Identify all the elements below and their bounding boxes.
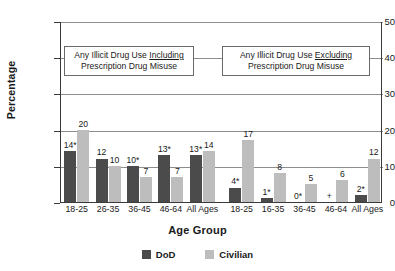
plot-right-edge bbox=[381, 22, 382, 203]
bar-value-label: 12 bbox=[369, 148, 379, 157]
y-tick-mark bbox=[54, 203, 60, 204]
bar-value-label: 1* bbox=[263, 188, 271, 197]
bar-value-label: 6 bbox=[340, 170, 345, 179]
bar-dod[interactable] bbox=[96, 159, 108, 202]
bar-civilian[interactable] bbox=[305, 184, 317, 202]
bar-civilian[interactable] bbox=[242, 140, 254, 202]
bar-value-label: 17 bbox=[243, 130, 253, 139]
bar-slot: 14 bbox=[203, 21, 215, 202]
x-tick-label: All Ages bbox=[181, 205, 224, 214]
annotation-left-emphasis: Including bbox=[149, 50, 183, 60]
bar-dod[interactable] bbox=[190, 155, 202, 202]
bar-value-label: 10 bbox=[110, 156, 120, 165]
annotation-right-emphasis: Excluding bbox=[315, 50, 352, 60]
bar-dod[interactable] bbox=[64, 151, 76, 202]
bar-dod[interactable] bbox=[127, 166, 139, 202]
bar-value-label: 7 bbox=[144, 167, 149, 176]
bar-civilian[interactable] bbox=[171, 177, 183, 202]
bar-civilian[interactable] bbox=[109, 166, 121, 202]
legend-label: Civilian bbox=[219, 249, 253, 260]
bar-value-label: 13* bbox=[158, 145, 171, 154]
bar-dod[interactable] bbox=[229, 188, 241, 202]
chart-figure: Percentage 01020304050 14*2018-25121026-… bbox=[0, 0, 395, 271]
bar-value-label: 4* bbox=[231, 177, 239, 186]
bar-value-label: 8 bbox=[277, 163, 282, 172]
bar-civilian[interactable] bbox=[274, 173, 286, 202]
legend-swatch-icon bbox=[205, 250, 214, 259]
legend-label: DoD bbox=[156, 249, 176, 260]
bar-civilian[interactable] bbox=[368, 159, 380, 202]
bar-value-label: 5 bbox=[309, 174, 314, 183]
bar-value-label: 12 bbox=[97, 148, 107, 157]
bar-value-label: 2* bbox=[357, 185, 365, 194]
legend-item[interactable]: Civilian bbox=[205, 249, 253, 260]
bar-civilian[interactable] bbox=[140, 177, 152, 202]
bar-dod[interactable] bbox=[261, 198, 273, 202]
bar-value-label: 7 bbox=[175, 167, 180, 176]
panel-divider bbox=[60, 22, 61, 203]
annotation-box-excluding: Any Illicit Drug Use Excluding Prescript… bbox=[222, 46, 370, 76]
chart-legend: DoDCivilian bbox=[0, 249, 395, 260]
annotation-right-line2: Prescription Drug Misuse bbox=[248, 61, 344, 71]
y-axis-title: Percentage bbox=[5, 15, 17, 165]
bar-civilian[interactable] bbox=[77, 130, 89, 202]
annotation-left-line2: Prescription Drug Misuse bbox=[81, 61, 177, 71]
x-tick-label: All Ages bbox=[346, 205, 389, 214]
bar-value-label: 13* bbox=[189, 145, 202, 154]
x-axis-title: Age Group bbox=[0, 224, 395, 236]
bar-value-label: 14* bbox=[64, 141, 77, 150]
bar-value-label: 10* bbox=[127, 156, 140, 165]
bar-value-label: 14 bbox=[204, 141, 214, 150]
bar-value-label: 0* bbox=[294, 192, 302, 201]
annotation-right-line1: Any Illicit Drug Use Excluding bbox=[240, 50, 352, 60]
bar-value-label: + bbox=[327, 192, 332, 201]
legend-item[interactable]: DoD bbox=[142, 249, 176, 260]
bar-dod[interactable] bbox=[158, 155, 170, 202]
legend-swatch-icon bbox=[142, 250, 151, 259]
bar-civilian[interactable] bbox=[203, 151, 215, 202]
bar-value-label: 20 bbox=[78, 120, 88, 129]
annotation-box-including: Any Illicit Drug Use Including Prescript… bbox=[64, 46, 194, 76]
bar-civilian[interactable] bbox=[336, 180, 348, 202]
bar-dod[interactable] bbox=[355, 195, 367, 202]
annotation-left-line1: Any Illicit Drug Use Including bbox=[74, 50, 183, 60]
